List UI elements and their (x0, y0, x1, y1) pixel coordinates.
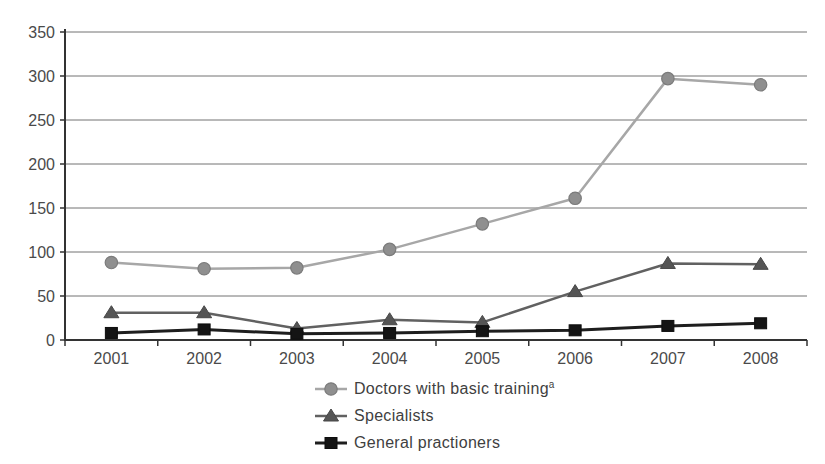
y-tick-label: 50 (37, 288, 55, 305)
data-point-doctors-basic-training (476, 218, 488, 230)
chart-page: 0501001502002503003502001200220032004200… (0, 0, 825, 464)
data-point-doctors-basic-training (662, 72, 674, 84)
x-tick-label: 2002 (186, 350, 222, 367)
data-point-general-practioners (198, 324, 210, 335)
data-point-general-practioners (384, 327, 396, 338)
footnote-marker: a (549, 379, 555, 390)
data-point-doctors-basic-training (754, 79, 766, 91)
legend-item-doctors-basic-training: Doctors with basic traininga (314, 378, 555, 400)
legend-marker-general-practioners (325, 438, 337, 449)
legend-item-general-practioners: General practioners (314, 432, 555, 454)
data-point-general-practioners (291, 328, 303, 339)
x-tick-label: 2005 (465, 350, 501, 367)
y-tick-label: 100 (28, 244, 55, 261)
data-point-general-practioners (105, 327, 117, 338)
y-tick-label: 0 (46, 332, 55, 349)
data-point-doctors-basic-training (198, 263, 210, 275)
y-tick-label: 200 (28, 156, 55, 173)
legend-label-specialists: Specialists (354, 407, 434, 425)
legend-square-marker-icon (314, 434, 348, 452)
legend-marker-doctors-basic-training (325, 383, 337, 395)
x-tick-label: 2003 (279, 350, 315, 367)
legend-label-doctors-basic-training: Doctors with basic traininga (354, 380, 555, 398)
x-tick-label: 2008 (743, 350, 779, 367)
data-point-general-practioners (476, 326, 488, 337)
data-point-general-practioners (755, 318, 767, 329)
data-point-general-practioners (662, 320, 674, 331)
chart-legend: Doctors with basic traininga Specialists… (314, 378, 555, 459)
legend-triangle-marker-icon (314, 407, 348, 425)
y-tick-label: 350 (28, 24, 55, 41)
x-tick-label: 2007 (650, 350, 686, 367)
series-line-doctors-basic-training (111, 79, 760, 269)
y-tick-label: 150 (28, 200, 55, 217)
legend-circle-marker-icon (314, 380, 348, 398)
data-point-doctors-basic-training (569, 192, 581, 204)
legend-label-general-practioners: General practioners (354, 434, 500, 452)
x-tick-label: 2001 (94, 350, 130, 367)
y-tick-label: 250 (28, 112, 55, 129)
data-point-general-practioners (569, 325, 581, 336)
data-point-doctors-basic-training (105, 256, 117, 268)
x-tick-label: 2006 (557, 350, 593, 367)
data-point-doctors-basic-training (383, 243, 395, 255)
data-point-doctors-basic-training (291, 262, 303, 274)
line-chart: 0501001502002503003502001200220032004200… (0, 0, 825, 372)
y-tick-label: 300 (28, 68, 55, 85)
x-tick-label: 2004 (372, 350, 408, 367)
legend-item-specialists: Specialists (314, 405, 555, 427)
